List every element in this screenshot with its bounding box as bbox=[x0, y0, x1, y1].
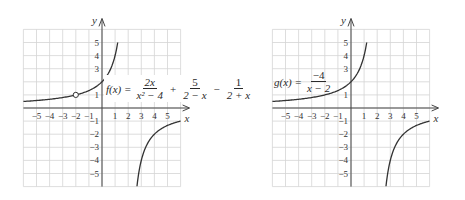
formula-f-term-1: 2x x² − 4 bbox=[134, 76, 165, 101]
formula-f-op-1: + bbox=[170, 83, 176, 95]
y-tick-label: −3 bbox=[338, 142, 348, 152]
x-axis-label: x bbox=[433, 112, 439, 124]
y-tick-label: −4 bbox=[338, 155, 348, 165]
x-tick-label: 2 bbox=[375, 111, 380, 121]
x-tick-label: −2 bbox=[71, 111, 81, 121]
x-tick-label: −3 bbox=[58, 111, 68, 121]
formula-f-term-2-num: 5 bbox=[190, 76, 200, 89]
y-tick-label: −1 bbox=[89, 116, 99, 126]
x-tick-label: −4 bbox=[45, 111, 55, 121]
y-tick-label: 4 bbox=[95, 51, 100, 61]
formula-f-term-1-den: x² − 4 bbox=[134, 89, 165, 101]
x-tick-label: 2 bbox=[126, 111, 131, 121]
formula-f-term-2: 5 2 − x bbox=[181, 76, 208, 101]
curve-right-branch bbox=[386, 121, 430, 186]
y-tick-label: 4 bbox=[344, 51, 349, 61]
x-tick-label: −4 bbox=[294, 111, 304, 121]
curve-right-branch bbox=[137, 121, 181, 186]
y-tick-label: 1 bbox=[95, 90, 100, 100]
x-tick-label: 4 bbox=[401, 111, 406, 121]
x-tick-label: 5 bbox=[165, 111, 170, 121]
y-tick-label: 5 bbox=[344, 38, 349, 48]
x-tick-label: −3 bbox=[307, 111, 317, 121]
y-tick-label: −2 bbox=[89, 129, 99, 139]
y-tick-label: −3 bbox=[89, 142, 99, 152]
formula-g: g(x) = −4 x − 2 bbox=[272, 68, 337, 95]
x-tick-label: −2 bbox=[320, 111, 330, 121]
formula-g-term-1-den: x − 2 bbox=[305, 82, 332, 94]
formula-f: f(x) = 2x x² − 4 + 5 2 − x − 1 2 + x bbox=[104, 75, 257, 102]
y-tick-label: −2 bbox=[338, 129, 348, 139]
y-tick-label: −5 bbox=[89, 169, 99, 179]
x-tick-label: −5 bbox=[32, 111, 42, 121]
formula-g-term-1-num: −4 bbox=[311, 69, 327, 82]
y-tick-label: 3 bbox=[344, 64, 349, 74]
y-tick-label: −1 bbox=[338, 116, 348, 126]
formula-f-term-3-num: 1 bbox=[234, 76, 244, 89]
y-tick-label: 3 bbox=[95, 64, 100, 74]
x-tick-label: 3 bbox=[139, 111, 144, 121]
formula-f-lhs: f(x) = bbox=[106, 83, 131, 95]
formula-f-term-1-num: 2x bbox=[143, 76, 157, 89]
hole-open-circle-icon bbox=[73, 92, 78, 97]
formula-g-lhs: g(x) = bbox=[274, 76, 302, 88]
formula-f-term-3-den: 2 + x bbox=[225, 89, 252, 101]
y-axis-label: y bbox=[91, 14, 97, 26]
x-tick-label: 4 bbox=[152, 111, 157, 121]
formula-f-op-2: − bbox=[214, 83, 220, 95]
x-tick-label: −5 bbox=[281, 111, 291, 121]
x-tick-label: 3 bbox=[388, 111, 393, 121]
y-tick-label: −4 bbox=[89, 155, 99, 165]
formula-f-term-2-den: 2 − x bbox=[181, 89, 208, 101]
y-axis-label: y bbox=[340, 14, 346, 26]
x-tick-label: 1 bbox=[113, 111, 118, 121]
y-tick-label: 5 bbox=[95, 38, 100, 48]
x-tick-label: 5 bbox=[414, 111, 419, 121]
graph-panel-2: xy−5−4−3−2−1123455431−1−2−3−4−5 bbox=[272, 14, 438, 186]
formula-f-term-3: 1 2 + x bbox=[225, 76, 252, 101]
y-tick-label: 1 bbox=[344, 90, 349, 100]
y-tick-label: −5 bbox=[338, 169, 348, 179]
formula-g-term-1: −4 x − 2 bbox=[305, 69, 332, 94]
x-tick-label: 1 bbox=[362, 111, 367, 121]
x-axis-label: x bbox=[184, 112, 190, 124]
